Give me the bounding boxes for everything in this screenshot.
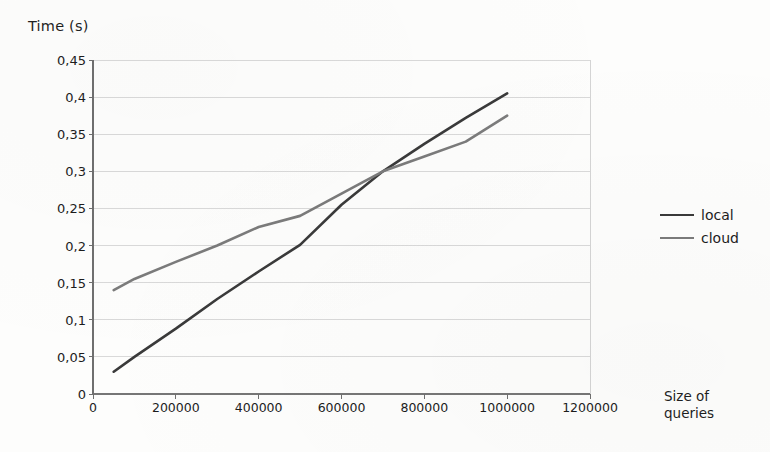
x-tick-label: 200000 [152, 400, 200, 415]
chart-legend: localcloud [660, 203, 764, 249]
plot-area [0, 0, 770, 452]
x-tick-label: 600000 [318, 400, 366, 415]
y-tick-label: 0,2 [28, 238, 86, 253]
y-tick-label: 0 [28, 387, 86, 402]
chart-figure: Time (s) 00,050,10,150,20,250,30,350,40,… [0, 0, 770, 452]
legend-line-swatch [660, 214, 694, 216]
legend-item-cloud: cloud [660, 226, 764, 249]
y-tick-label: 0,1 [28, 312, 86, 327]
x-axis-title-line-2: queries [664, 405, 760, 422]
x-tick-label: 1200000 [562, 400, 618, 415]
legend-label: local [701, 208, 734, 222]
x-axis-title-line-1: Size of [664, 388, 760, 405]
x-tick-label: 0 [89, 400, 97, 415]
y-tick-label: 0,4 [28, 90, 86, 105]
legend-item-local: local [660, 203, 764, 226]
x-axis-title: Size of queries [664, 388, 760, 422]
y-tick-label: 0,15 [28, 275, 86, 290]
x-tick-label: 800000 [400, 400, 448, 415]
y-tick-label: 0,35 [28, 127, 86, 142]
y-axis-tick-labels: 00,050,10,150,20,250,30,350,40,45 [24, 0, 86, 452]
x-tick-label: 1000000 [479, 400, 535, 415]
series-line-cloud [114, 116, 507, 290]
series-line-local [114, 93, 507, 371]
y-tick-label: 0,05 [28, 349, 86, 364]
legend-label: cloud [701, 231, 739, 245]
y-tick-label: 0,3 [28, 164, 86, 179]
y-tick-label: 0,45 [28, 53, 86, 68]
legend-line-swatch [660, 237, 694, 239]
y-tick-label: 0,25 [28, 201, 86, 216]
x-tick-label: 400000 [235, 400, 283, 415]
